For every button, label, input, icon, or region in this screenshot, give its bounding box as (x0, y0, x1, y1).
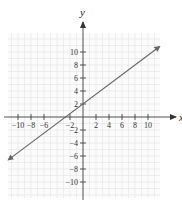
y-tick-label: −8 (69, 165, 78, 174)
x-tick-label: 6 (120, 121, 124, 130)
y-tick-label: 8 (74, 61, 78, 70)
y-tick-label: 10 (70, 48, 78, 57)
y-tick-label: 4 (74, 87, 78, 96)
y-tick-label: −4 (69, 139, 78, 148)
x-tick-label: 8 (133, 121, 137, 130)
x-tick-label: 10 (144, 121, 152, 130)
y-tick-label: −6 (69, 152, 78, 161)
y-tick-label: 6 (74, 74, 78, 83)
x-tick-label: −8 (27, 121, 36, 130)
x-tick-label: −6 (40, 121, 49, 130)
coordinate-plane-chart: −10−8−6−2246810108642−2−4−6−8−10 y x (0, 0, 182, 202)
x-tick-label: 4 (107, 121, 111, 130)
y-tick-label: −10 (65, 178, 78, 187)
y-axis-label: y (79, 6, 85, 18)
x-tick-label: −10 (12, 121, 25, 130)
y-tick-label: −2 (69, 126, 78, 135)
x-axis-label: x (178, 111, 182, 123)
x-tick-label: 2 (94, 121, 98, 130)
